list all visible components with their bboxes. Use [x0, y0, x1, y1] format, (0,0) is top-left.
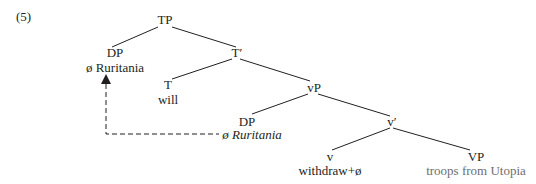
t-text: will: [158, 93, 178, 107]
node-dp-spec: DP: [107, 46, 124, 60]
node-v-bar: v′: [387, 115, 396, 129]
v-text: withdraw+ø: [299, 164, 362, 178]
dp-spec-text: ø Ruritania: [86, 61, 144, 75]
example-number: (5): [16, 10, 31, 24]
dp-inner-text: ø Ruritania: [222, 128, 282, 142]
node-vp: VP: [468, 150, 485, 164]
tree-branches: [0, 0, 536, 184]
node-v: v: [327, 150, 334, 164]
node-t: T: [164, 78, 172, 92]
node-tp: TP: [157, 13, 172, 27]
node-vp-little: vP: [307, 81, 321, 95]
vp-text: troops from Utopia: [426, 164, 526, 178]
node-t-bar: T′: [232, 46, 243, 60]
